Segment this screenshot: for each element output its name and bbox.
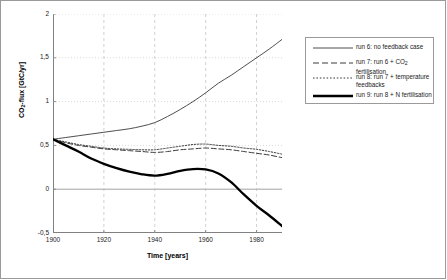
y-axis-title: CO2-flux [GtC/yr]	[18, 25, 26, 155]
y-tick-label: 1,5	[27, 54, 49, 61]
legend-item-run6: run 6: no feedback case	[306, 43, 435, 57]
plot-area	[53, 14, 282, 233]
chart-figure-frame: 21,510,50-0,5 19001920194019601980 Time …	[0, 0, 446, 279]
legend-label-run8: run 8: run 7 + temperaturefeedbacks	[356, 73, 433, 88]
legend-label-run7-pre: run 7: run 6 + CO	[356, 58, 405, 65]
y-tick-label: 0	[27, 186, 49, 193]
chart-legend: run 6: no feedback case run 7: run 6 + C…	[305, 37, 434, 104]
legend-label-run9: run 9: run 8 + N fertilisation	[356, 91, 433, 99]
legend-item-run7: run 7: run 6 + CO2 fertilisation	[306, 58, 435, 72]
legend-item-run9: run 9: run 8 + N fertilisation	[306, 91, 435, 105]
x-axis-title: Time [years]	[53, 252, 282, 259]
plot-data-lines	[53, 14, 282, 233]
series-line-4	[53, 139, 282, 226]
legend-label-run6: run 6: no feedback case	[356, 43, 433, 51]
x-tick-label: 1980	[237, 237, 277, 244]
legend-line-sample-dotted	[312, 73, 354, 85]
x-tick-label: 1920	[84, 237, 124, 244]
series-line-1	[53, 39, 282, 139]
y-tick-label: 2	[27, 11, 49, 18]
legend-item-run8: run 8: run 7 + temperaturefeedbacks	[306, 73, 435, 91]
y-tick-label: 1	[27, 98, 49, 105]
x-tick-label: 1900	[33, 237, 73, 244]
x-tick-label: 1940	[135, 237, 175, 244]
y-tick-label: 0,5	[27, 142, 49, 149]
legend-line-sample-dashed	[312, 58, 354, 70]
legend-line-sample-solid-thin	[312, 43, 354, 55]
legend-label-run8-line1: run 8: run 7 + temperature	[356, 73, 429, 80]
legend-line-sample-solid-thick	[312, 91, 354, 103]
legend-label-run7-subscript: 2	[405, 60, 408, 66]
legend-label-run8-line2: feedbacks	[356, 81, 385, 88]
x-tick-label: 1960	[186, 237, 226, 244]
